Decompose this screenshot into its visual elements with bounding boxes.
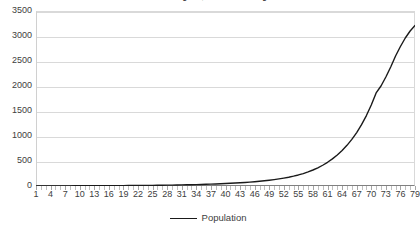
x-axis-tick-label: 1 bbox=[33, 189, 38, 199]
x-axis-labels: 1471013161922252831343740434649525558616… bbox=[36, 189, 415, 203]
y-axis-tick-label: 3000 bbox=[0, 31, 32, 40]
x-axis-tick-label: 16 bbox=[104, 189, 114, 199]
y-axis-tick-label: 2000 bbox=[0, 81, 32, 90]
legend-label-population: Population bbox=[202, 213, 247, 223]
x-axis-tick-label: 34 bbox=[191, 189, 201, 199]
population-curve bbox=[36, 11, 415, 186]
x-axis-tick-label: 4 bbox=[48, 189, 53, 199]
x-axis-tick-label: 58 bbox=[308, 189, 318, 199]
x-axis-tick-label: 13 bbox=[89, 189, 99, 199]
y-axis-tick-label: 1000 bbox=[0, 131, 32, 140]
series-line-population bbox=[36, 26, 415, 186]
x-axis-tick-label: 67 bbox=[352, 189, 362, 199]
x-axis-tick-label: 70 bbox=[366, 189, 376, 199]
x-axis-tick-label: 31 bbox=[177, 189, 187, 199]
x-axis-tick-label: 22 bbox=[133, 189, 143, 199]
x-axis-tick-label: 43 bbox=[235, 189, 245, 199]
y-axis-tick-label: 3500 bbox=[0, 6, 32, 15]
legend-line-marker bbox=[170, 218, 197, 219]
x-axis-tick-label: 73 bbox=[381, 189, 391, 199]
x-axis-tick-label: 7 bbox=[63, 189, 68, 199]
x-axis-tick-label: 19 bbox=[118, 189, 128, 199]
x-axis-tick-label: 40 bbox=[220, 189, 230, 199]
x-axis-tick-label: 49 bbox=[264, 189, 274, 199]
y-axis-labels: 0500100015002000250030003500 bbox=[0, 0, 32, 200]
x-axis-tick-label: 76 bbox=[395, 189, 405, 199]
chart-legend: Population bbox=[0, 213, 416, 223]
y-axis-tick-label: 0 bbox=[0, 181, 32, 190]
y-axis-tick-label: 2500 bbox=[0, 56, 32, 65]
y-axis-tick-label: 1500 bbox=[0, 106, 32, 115]
chart-title: one child at age 30, and ½ child at age … bbox=[0, 0, 416, 1]
x-axis-tick-label: 28 bbox=[162, 189, 172, 199]
x-axis-tick-label: 10 bbox=[75, 189, 85, 199]
x-axis-tick-label: 79 bbox=[410, 189, 420, 199]
y-axis-tick-label: 500 bbox=[0, 156, 32, 165]
x-axis-tick-label: 64 bbox=[337, 189, 347, 199]
x-axis-tick-label: 25 bbox=[148, 189, 158, 199]
x-axis-tick-label: 55 bbox=[293, 189, 303, 199]
x-axis-tick-label: 46 bbox=[250, 189, 260, 199]
x-axis-tick-label: 37 bbox=[206, 189, 216, 199]
x-axis-tick-label: 61 bbox=[323, 189, 333, 199]
x-axis-tick-label: 52 bbox=[279, 189, 289, 199]
